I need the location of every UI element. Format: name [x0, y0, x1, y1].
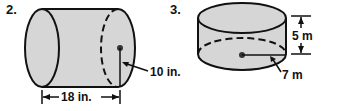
length-label: 18 in. — [61, 90, 92, 104]
height-label: 5 m — [292, 29, 313, 43]
horizontal-cylinder-diagram — [0, 0, 338, 111]
radius-label: 10 in. — [150, 65, 181, 79]
radius-label-3: 7 m — [282, 68, 303, 82]
figure-3-number: 3. — [170, 2, 181, 17]
